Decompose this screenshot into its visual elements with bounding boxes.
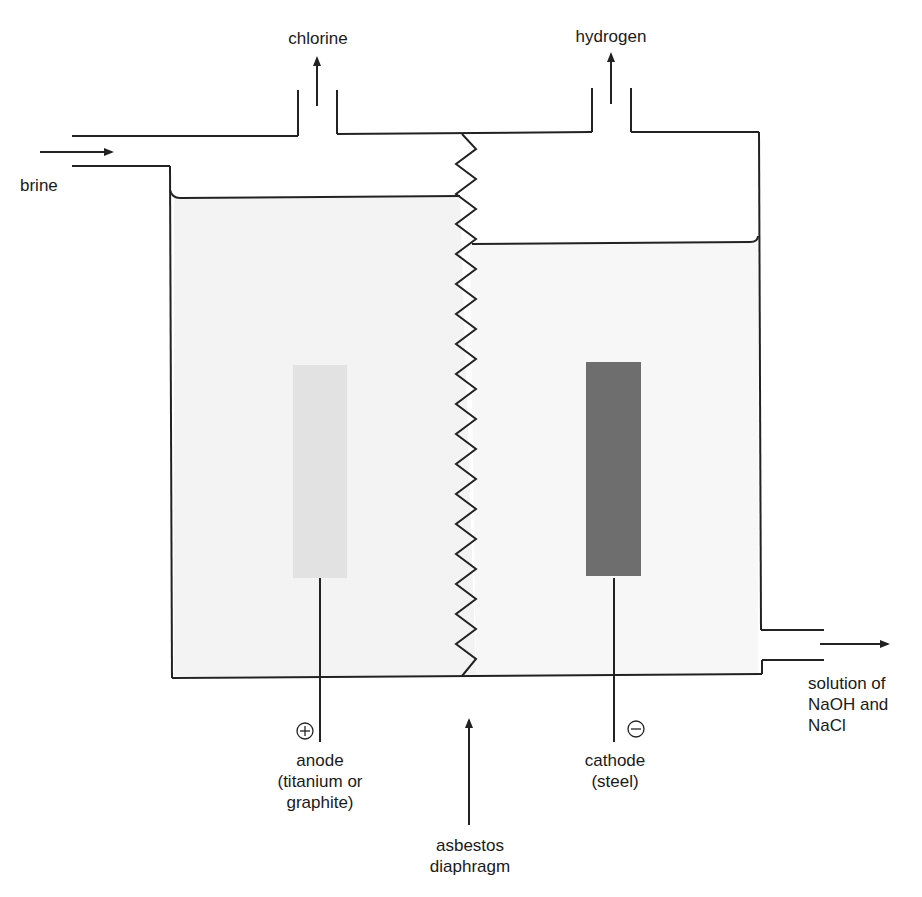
anode-plate bbox=[293, 365, 347, 578]
cathode-plate bbox=[586, 362, 641, 576]
diaphragm-label: asbestos diaphragm bbox=[410, 835, 530, 877]
chlorine-label: chlorine bbox=[276, 28, 360, 49]
negative-terminal-icon bbox=[628, 721, 644, 737]
hydrogen-label: hydrogen bbox=[566, 26, 656, 47]
electrolysis-cell-diagram bbox=[0, 0, 922, 897]
anode-label: anode (titanium or graphite) bbox=[260, 750, 380, 813]
outlet-label: solution of NaOH and NaCl bbox=[808, 673, 888, 736]
cathode-label: cathode (steel) bbox=[560, 750, 670, 792]
positive-terminal-icon bbox=[297, 723, 313, 739]
brine-label: brine bbox=[20, 175, 58, 196]
